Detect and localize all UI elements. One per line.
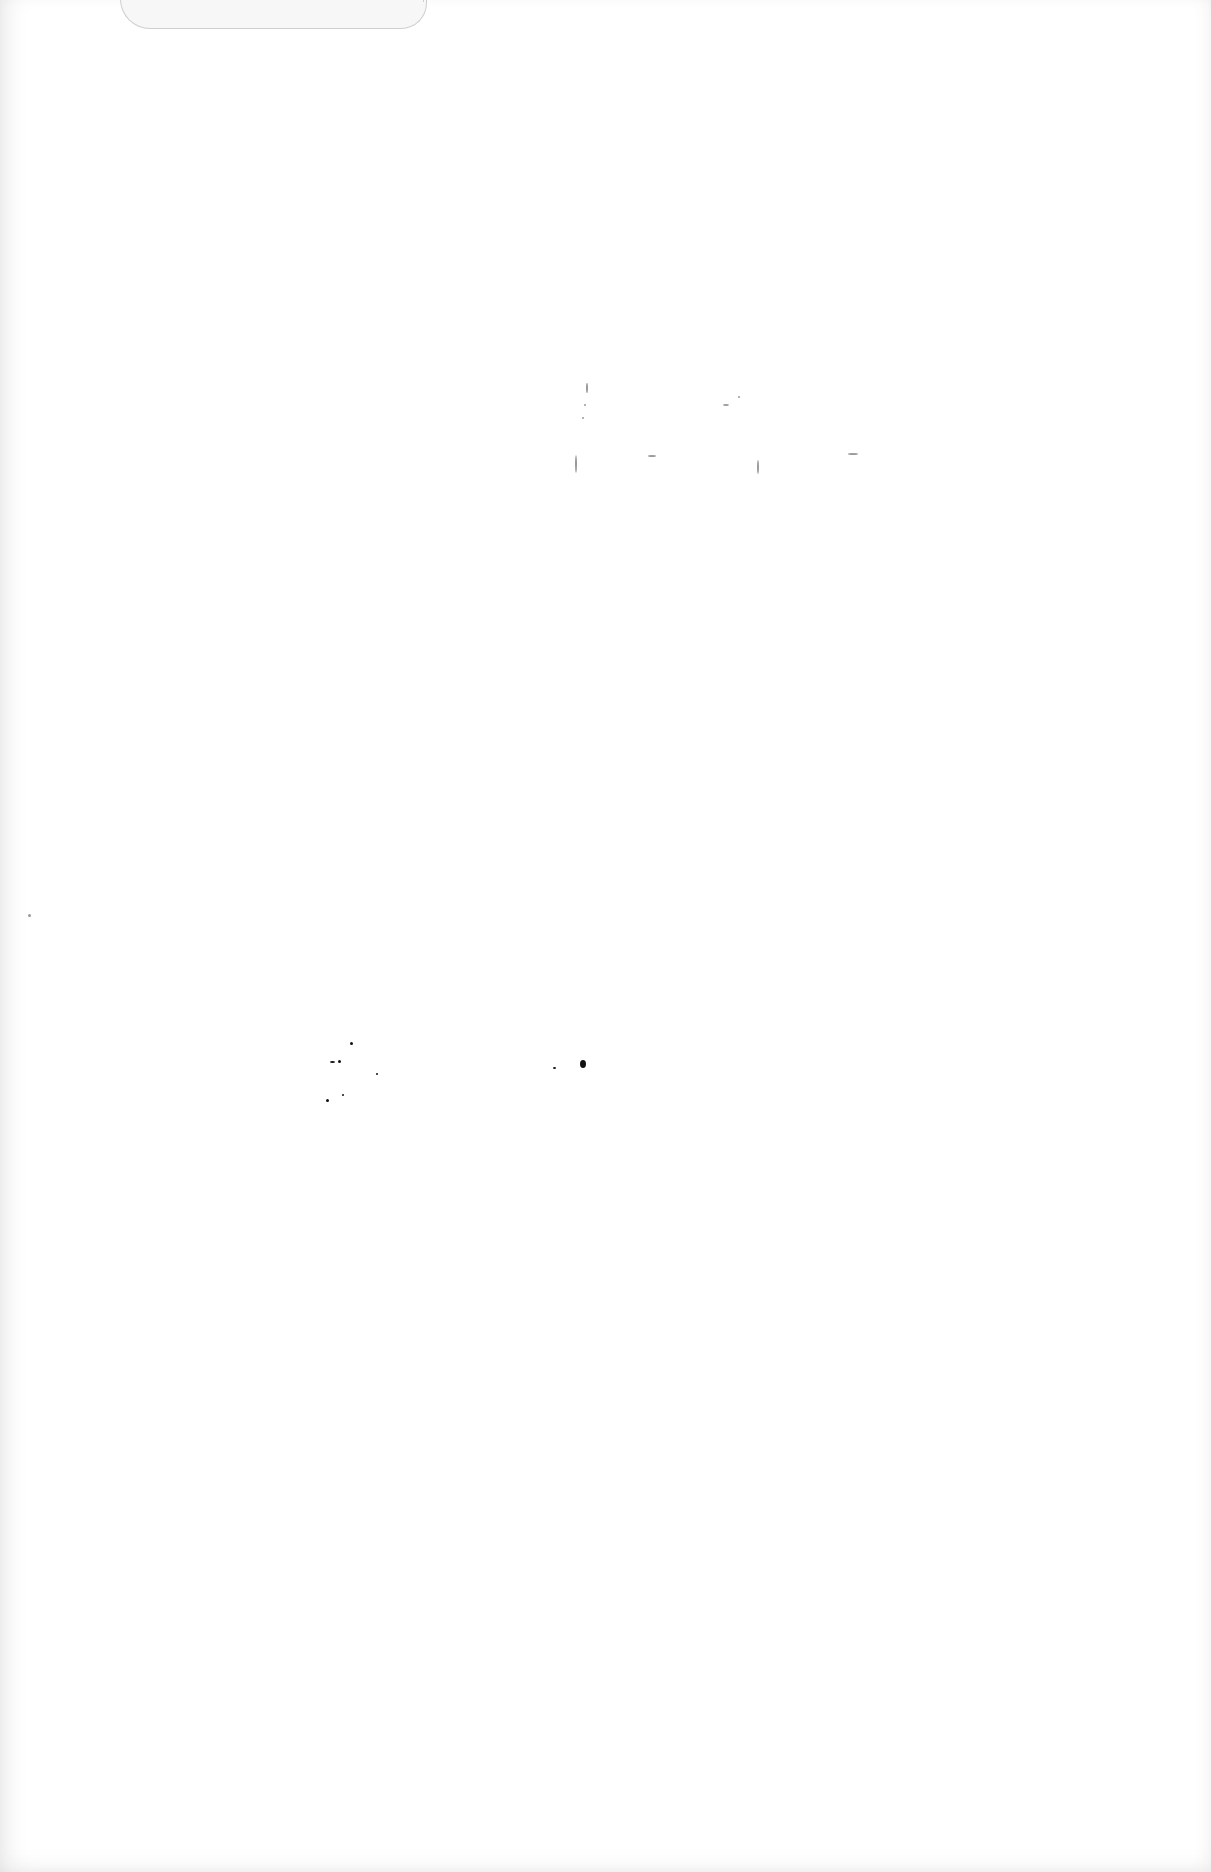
scan-speck [723, 404, 729, 406]
scan-speck [584, 404, 586, 406]
scan-speck [757, 460, 759, 474]
scan-speck [582, 417, 584, 419]
scan-speck [738, 396, 740, 398]
scan-speck [338, 1060, 341, 1063]
scan-speck [848, 453, 858, 455]
scan-speck [350, 1042, 353, 1045]
scan-speck [330, 1061, 335, 1063]
scan-speck [575, 455, 577, 473]
scan-speck [28, 914, 31, 917]
blank-page [0, 0, 1211, 1872]
scan-speck [342, 1094, 344, 1096]
scan-speck [553, 1067, 556, 1069]
scan-speck [648, 455, 656, 457]
scan-speck [326, 1099, 329, 1102]
scan-speck [580, 1060, 586, 1068]
tab-divider [423, 0, 424, 2]
scan-speck [376, 1073, 378, 1075]
scan-speck [586, 383, 588, 393]
page-tab-edge [120, 0, 427, 29]
